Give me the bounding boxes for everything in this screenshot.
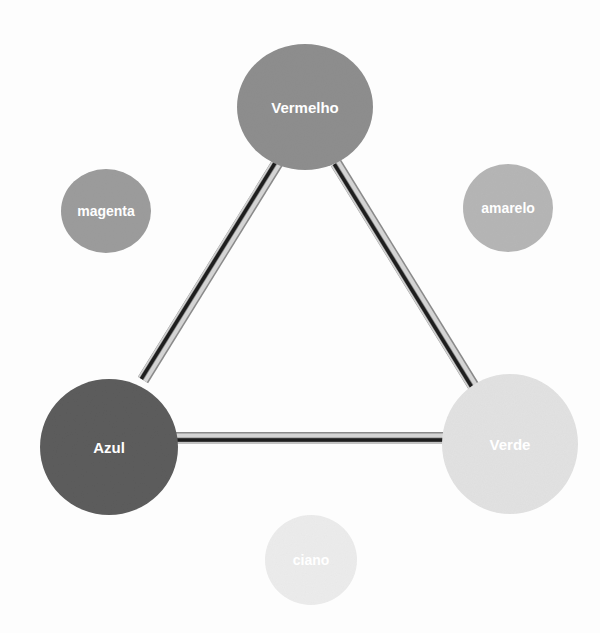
connectors-layer [139, 159, 478, 443]
label-azul: Azul [93, 439, 125, 456]
node-amarelo: amarelo [463, 164, 553, 252]
label-amarelo: amarelo [481, 200, 535, 216]
node-magenta: magenta [61, 169, 151, 253]
label-ciano: ciano [293, 552, 330, 568]
connector-vermelho-azul [139, 159, 280, 381]
diagram-canvas: magenta amarelo ciano Vermelho Azul Verd… [0, 0, 600, 633]
color-triangle-diagram: magenta amarelo ciano Vermelho Azul Verd… [0, 0, 600, 633]
connector-vermelho-verde [332, 162, 478, 393]
node-verde: Verde [442, 374, 578, 514]
node-ciano: ciano [265, 515, 357, 605]
label-verde: Verde [490, 436, 531, 453]
label-magenta: magenta [77, 203, 135, 219]
label-vermelho: Vermelho [271, 99, 339, 116]
node-azul: Azul [40, 379, 178, 515]
connector-azul-verde [176, 436, 444, 444]
node-vermelho: Vermelho [237, 44, 373, 170]
